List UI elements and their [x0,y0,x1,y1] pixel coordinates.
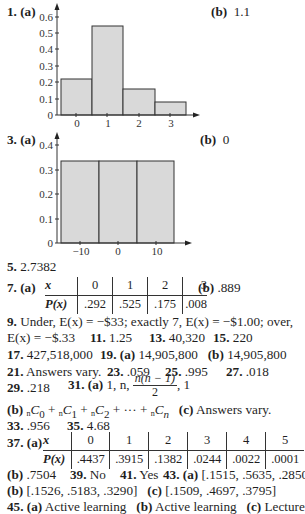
problem-7b: (b) .889 [198,281,241,294]
svg-text:0.1: 0.1 [39,213,53,225]
svg-text:0: 0 [48,109,54,121]
svg-text:0: 0 [48,237,54,249]
histogram-bars [61,161,174,243]
problem-33: 33. .956 [7,419,50,432]
distribution-table-37: x 0 1 2 3 4 5 P(x) .4437 .3915 .1382 .02… [43,432,304,469]
x-header: x [43,432,72,451]
problem-9-line2: E(x) = −$.33 [7,331,75,344]
chart-problem-3: 00.10.2 0.30.4 −10010 [0,125,305,260]
problem-45abc: 45. (a) Active learning (b) Active learn… [7,500,305,513]
problem-17: 17. 427,518,000 [7,348,93,361]
problem-37b: (b) .7504 [7,468,56,481]
svg-text:0.2: 0.2 [39,188,53,200]
y-axis-arrow-icon [55,3,60,10]
svg-text:0.1: 0.1 [39,93,53,105]
problem-35: 35. 4.68 [67,419,110,432]
problem-27: 27. .018 [226,365,269,378]
problem-37-label: 37. (a) [7,436,42,449]
svg-text:10: 10 [152,245,164,257]
fraction: n(n − 1) 2 [133,372,177,398]
x-header: x [45,277,78,296]
problem-29: 29. .218 [7,381,50,394]
problem-7-label: 7. (a) [7,281,36,294]
y-axis-arrow-icon [55,132,60,139]
problem-13: 13. 40,320 [149,331,205,344]
svg-text:0.3: 0.3 [39,164,53,176]
problem-19: 19. (a) 14,905,800 (b) 14,905,800 [100,348,286,361]
combination-sum: nC0 + nC1 + nC2 + ··· + nCn [26,402,169,417]
svg-text:0.5: 0.5 [39,27,53,39]
distribution-table-7: x 0 1 2 3 P(x) .292 .525 .175 .008 [45,277,207,314]
problem-43a: 43. (a) [.1515, .5635, .2850] [163,468,305,481]
p-header: P(x) [45,296,78,315]
svg-text:−10: −10 [72,245,90,257]
svg-text:0.3: 0.3 [39,60,53,72]
x-axis-arrow-icon [193,113,200,118]
svg-text:0.2: 0.2 [39,76,53,88]
chart-problem-1: 00.10.2 0.30.40.50.6 0123 [0,0,305,130]
problem-5: 5. 2.7382 [7,260,56,273]
histogram-bars [61,26,186,115]
problem-15: 15. 220 [213,331,253,344]
problem-39: 39. No [70,468,106,481]
x-axis-arrow-icon [185,241,192,246]
problem-31a: 31. (a) 1, n, n(n − 1) 2 , 1 [68,372,190,398]
problem-9-line1: 9. Under, E(x) = −$33; exactly 7, E(x) =… [7,315,293,328]
problem-41: 41. Yes [120,468,159,481]
svg-text:0.4: 0.4 [39,139,53,151]
svg-text:0: 0 [115,245,121,257]
svg-text:0.6: 0.6 [39,11,53,23]
problem-43bc: (b) [.1526, .5183, .3290] (c) [.1509, .4… [7,484,276,497]
svg-text:0.4: 0.4 [39,43,53,55]
problem-11: 11. 1.25 [90,331,132,344]
